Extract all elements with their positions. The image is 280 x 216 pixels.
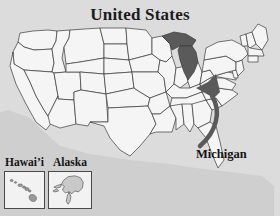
inset-alaska-box — [48, 171, 92, 209]
state-montana — [64, 28, 104, 64]
hawaii-islands-shape — [5, 172, 44, 208]
alaska-shape — [49, 172, 91, 208]
state-new-jersey — [236, 60, 244, 76]
state-connecticut — [248, 56, 258, 62]
michigan-callout-label: Michigan — [196, 148, 247, 161]
state-maine — [252, 24, 268, 50]
inset-hawaii-box — [4, 171, 45, 209]
inset-hawaii: Hawai’i — [4, 157, 45, 209]
inset-alaska: Alaska — [48, 157, 92, 209]
western-states — [10, 28, 108, 130]
inset-alaska-label: Alaska — [48, 157, 92, 169]
state-north-dakota — [100, 28, 127, 44]
state-nebraska — [104, 58, 132, 74]
us-map-figure: United States .st{fill:#f5f5f5;stroke:#3… — [0, 0, 280, 216]
inset-hawaii-label: Hawai’i — [4, 157, 45, 169]
state-south-dakota — [104, 44, 129, 60]
state-new-mexico — [74, 90, 108, 126]
